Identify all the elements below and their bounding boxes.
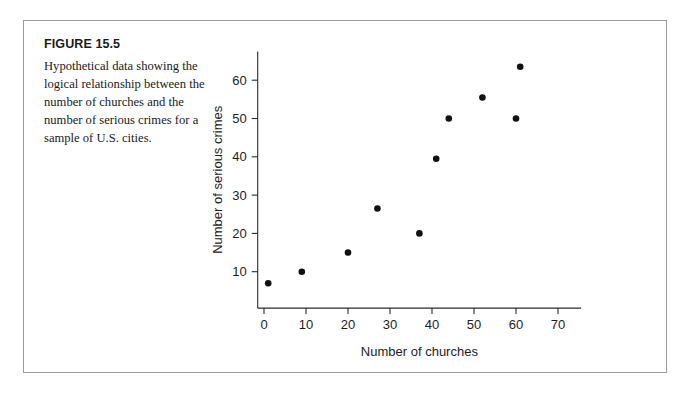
data-point: [433, 155, 440, 162]
data-point: [374, 205, 381, 212]
y-tick-label: 10: [232, 264, 246, 279]
y-axis-title: Number of serious crimes: [210, 105, 225, 254]
scatter-chart: 010203040506070 102030405060 Number of c…: [24, 21, 668, 374]
y-axis-ticks: 102030405060: [232, 73, 257, 280]
y-tick-label: 60: [232, 73, 246, 88]
y-tick-label: 30: [232, 188, 246, 203]
chart-axes: [258, 51, 581, 308]
x-tick-label: 60: [509, 317, 523, 332]
x-tick-label: 0: [260, 317, 267, 332]
x-axis-ticks: 010203040506070: [260, 308, 565, 332]
figure-frame: FIGURE 15.5 Hypothetical data showing th…: [23, 20, 667, 373]
data-point: [345, 249, 352, 256]
x-axis-title: Number of churches: [361, 344, 479, 359]
y-tick-label: 40: [232, 149, 246, 164]
x-tick-label: 40: [425, 317, 439, 332]
chart-svg: 010203040506070 102030405060 Number of c…: [24, 21, 668, 374]
y-tick-label: 20: [232, 226, 246, 241]
x-tick-label: 70: [551, 317, 565, 332]
data-point: [517, 63, 524, 70]
data-point: [513, 115, 520, 122]
x-tick-label: 50: [467, 317, 481, 332]
x-tick-label: 20: [341, 317, 355, 332]
data-point: [479, 94, 486, 101]
data-point: [446, 115, 453, 122]
data-point: [265, 280, 272, 287]
x-tick-label: 10: [299, 317, 313, 332]
x-tick-label: 30: [383, 317, 397, 332]
y-tick-label: 50: [232, 111, 246, 126]
data-point: [299, 268, 306, 275]
data-points: [265, 63, 524, 286]
data-point: [416, 230, 423, 237]
